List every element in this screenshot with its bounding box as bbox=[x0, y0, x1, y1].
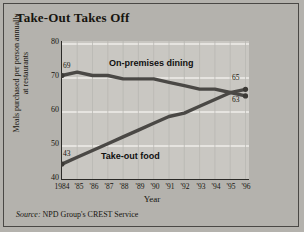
y-axis-title: Meals purchased per person annually at r… bbox=[12, 13, 30, 133]
value-label-on-premises-start: 69 bbox=[63, 61, 71, 70]
chart-title: Take-Out Takes Off bbox=[16, 10, 130, 26]
y-tick-40: 40 bbox=[37, 173, 59, 182]
series-label-take-out-food: Take-out food bbox=[101, 151, 160, 161]
y-tick-80: 80 bbox=[37, 37, 59, 46]
x-axis-title: Year bbox=[4, 194, 300, 204]
y-tick-50: 50 bbox=[37, 139, 59, 148]
datapoint-take-out-end bbox=[243, 87, 248, 92]
value-label-on-premises-end: 63 bbox=[232, 95, 240, 104]
source-prefix: Source: bbox=[16, 210, 41, 219]
series-label-on-premises-dining: On-premises dining bbox=[109, 58, 194, 68]
value-label-take-out-start: 43 bbox=[63, 149, 71, 158]
y-tick-60: 60 bbox=[37, 105, 59, 114]
value-label-take-out-end: 65 bbox=[232, 73, 240, 82]
source-text: NPD Group's CREST Service bbox=[43, 210, 139, 219]
y-axis-ticks: 80 70 60 50 40 bbox=[33, 41, 59, 186]
datapoint-on-premises-end bbox=[243, 93, 248, 98]
plot-area: 69 43 65 63 On-premises dining Take-out … bbox=[61, 41, 249, 180]
chart-panel: Take-Out Takes Off Meals purchased per p… bbox=[3, 3, 299, 227]
x-tick-96: '96 bbox=[233, 182, 259, 191]
source-note: Source: NPD Group's CREST Service bbox=[16, 210, 138, 219]
y-tick-70: 70 bbox=[37, 71, 59, 80]
